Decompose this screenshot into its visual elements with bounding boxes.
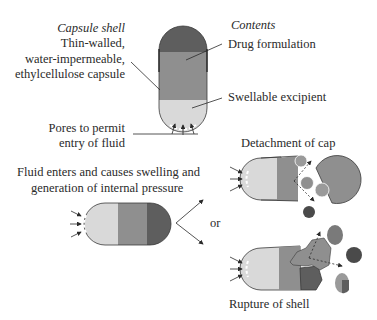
swelling-capsule (70, 200, 177, 250)
capsule-shell-line-3: ethylcellulose capsule (15, 67, 125, 82)
rupture-capsule (230, 225, 362, 293)
fluid-enters-line-2: generation of internal pressure (31, 181, 183, 196)
contents-heading: Contents (231, 18, 275, 33)
drug-formulation-label: Drug formulation (228, 37, 316, 52)
fluid-enters-line-1: Fluid enters and causes swelling and (17, 165, 200, 180)
detachment-capsule (230, 155, 361, 218)
intact-capsule-vertical (131, 20, 222, 140)
pores-line-1: Pores to permit (49, 121, 125, 136)
capsule-shell-heading: Capsule shell (57, 21, 125, 36)
rupture-of-shell-label: Rupture of shell (229, 297, 310, 312)
detachment-of-cap-label: Detachment of cap (241, 136, 335, 151)
branch-arrows (176, 200, 203, 244)
capsule-shell-line-1: Thin-walled, (61, 36, 125, 51)
or-label: or (210, 216, 220, 231)
capsule-shell-line-2: water-impermeable, (25, 52, 125, 67)
swellable-excipient-label: Swellable excipient (228, 90, 326, 105)
pores-line-2: entry of fluid (59, 136, 125, 151)
diagram-canvas (0, 0, 377, 320)
